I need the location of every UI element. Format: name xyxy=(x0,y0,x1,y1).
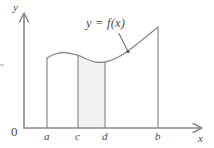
label-leader-dot xyxy=(127,50,130,53)
function-label: y = f(x) xyxy=(86,17,125,30)
edge-artifact-mark xyxy=(0,64,4,66)
label-leader-line xyxy=(119,34,128,51)
y-axis-label: y xyxy=(13,2,18,13)
tick-label-d: d xyxy=(102,131,108,142)
tick-label-b: b xyxy=(155,131,161,142)
tick-label-a: a xyxy=(44,131,50,142)
figure-container: y x 0 a c d b y = f(x) xyxy=(0,0,214,148)
origin-label: 0 xyxy=(11,125,18,138)
function-curve xyxy=(47,27,158,62)
x-axis-label: x xyxy=(198,133,203,144)
tick-label-c: c xyxy=(75,131,80,142)
shaded-area-c-to-d xyxy=(78,55,105,128)
